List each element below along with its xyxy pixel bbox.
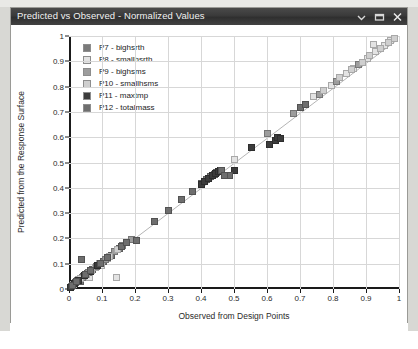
data-point xyxy=(78,256,85,263)
x-tick-label: 0.5 xyxy=(228,294,239,303)
x-tick-mark xyxy=(399,289,400,293)
gridline-vertical xyxy=(399,36,400,289)
data-point xyxy=(320,87,327,94)
screenshot-root: Predicted vs Observed - Normalized Value… xyxy=(0,0,418,349)
y-tick-label: 0.7 xyxy=(53,107,64,116)
x-tick-label: 0.8 xyxy=(327,294,338,303)
y-tick-label: 0.9 xyxy=(53,57,64,66)
y-tick-label: 0.4 xyxy=(53,183,64,192)
y-tick-label: 0.3 xyxy=(53,209,64,218)
legend-swatch xyxy=(83,44,91,52)
data-point xyxy=(366,52,373,59)
data-point xyxy=(377,45,384,52)
x-tick-label: 0.4 xyxy=(195,294,206,303)
x-tick-mark xyxy=(366,289,367,293)
y-tick-label: 1 xyxy=(60,32,64,41)
top-margin-strip xyxy=(0,0,418,7)
y-tick-label: 0.5 xyxy=(53,158,64,167)
x-tick-label: 0 xyxy=(67,294,71,303)
x-axis-title: Observed from Design Points xyxy=(69,311,399,321)
left-margin-strip xyxy=(0,0,10,349)
y-tick-label: 0.6 xyxy=(53,133,64,142)
gridline-horizontal xyxy=(69,188,399,189)
y-tick-mark xyxy=(65,61,69,62)
x-tick-mark xyxy=(168,289,169,293)
data-point xyxy=(264,130,271,137)
gridline-horizontal xyxy=(69,87,399,88)
gridline-horizontal xyxy=(69,36,399,37)
data-point xyxy=(73,278,80,285)
data-point xyxy=(189,188,196,195)
x-tick-label: 0.9 xyxy=(360,294,371,303)
data-point xyxy=(178,196,185,203)
y-tick-label: 0 xyxy=(60,285,64,294)
x-tick-mark xyxy=(234,289,235,293)
plot-area: P7 - bighsrthP8 - smallhsrthP9 - bighsms… xyxy=(69,36,399,289)
legend-label: P12 - totalmass xyxy=(99,103,155,112)
legend-item[interactable]: P9 - bighsms xyxy=(83,66,158,77)
y-tick-mark xyxy=(65,86,69,87)
legend-swatch xyxy=(83,104,91,112)
x-tick-label: 0.3 xyxy=(162,294,173,303)
legend-item[interactable]: P8 - smallhsrth xyxy=(83,54,158,65)
chevron-down-icon[interactable] xyxy=(356,11,367,23)
chart-canvas: Predicted from the Response Surface Obse… xyxy=(11,25,407,323)
x-tick-mark xyxy=(333,289,334,293)
y-tick-mark xyxy=(65,111,69,112)
y-tick-mark xyxy=(65,213,69,214)
data-point xyxy=(277,135,284,142)
gridline-horizontal xyxy=(69,213,399,214)
y-tick-mark xyxy=(65,36,69,37)
window-title: Predicted vs Observed - Normalized Value… xyxy=(17,10,205,21)
x-tick-label: 0.6 xyxy=(261,294,272,303)
x-tick-mark xyxy=(135,289,136,293)
legend-swatch xyxy=(83,92,91,100)
data-point xyxy=(165,207,172,214)
gridline-horizontal xyxy=(69,61,399,62)
data-point xyxy=(151,218,158,225)
y-axis-title: Predicted from the Response Surface xyxy=(16,91,26,233)
x-tick-mark xyxy=(300,289,301,293)
x-tick-label: 0.7 xyxy=(294,294,305,303)
legend-item[interactable]: P11 - maxtmp xyxy=(83,90,158,101)
legend-label: P9 - bighsms xyxy=(99,67,146,76)
data-point xyxy=(87,267,94,274)
y-tick-label: 0.8 xyxy=(53,82,64,91)
restore-window-icon[interactable] xyxy=(374,11,385,23)
data-point xyxy=(133,237,140,244)
data-point xyxy=(97,260,104,267)
data-point xyxy=(336,74,343,81)
legend-item[interactable]: P7 - bighsrth xyxy=(83,42,158,53)
x-tick-label: 1 xyxy=(397,294,401,303)
y-tick-label: 0.1 xyxy=(53,259,64,268)
data-point xyxy=(104,254,111,261)
data-point xyxy=(302,101,309,108)
data-point xyxy=(123,239,130,246)
bottom-margin-strip xyxy=(0,331,418,349)
y-tick-mark xyxy=(65,137,69,138)
legend-label: P11 - maxtmp xyxy=(99,91,148,100)
data-point xyxy=(348,66,355,73)
gridline-horizontal xyxy=(69,238,399,239)
data-point xyxy=(248,144,255,151)
right-margin-strip xyxy=(408,0,418,349)
y-tick-mark xyxy=(65,238,69,239)
chart-legend: P7 - bighsrthP8 - smallhsrthP9 - bighsms… xyxy=(83,42,158,113)
x-tick-mark xyxy=(267,289,268,293)
chart-window: Predicted vs Observed - Normalized Value… xyxy=(10,7,408,323)
x-tick-label: 0.1 xyxy=(96,294,107,303)
y-tick-label: 0.2 xyxy=(53,234,64,243)
x-tick-mark xyxy=(201,289,202,293)
data-point xyxy=(391,35,398,42)
close-icon[interactable] xyxy=(392,11,403,23)
window-titlebar[interactable]: Predicted vs Observed - Normalized Value… xyxy=(11,8,407,25)
data-point xyxy=(359,59,366,66)
data-point xyxy=(221,172,228,179)
legend-label: P8 - smallhsrth xyxy=(99,55,152,64)
x-tick-label: 0.2 xyxy=(129,294,140,303)
gridline-horizontal xyxy=(69,137,399,138)
window-controls xyxy=(356,8,403,25)
x-tick-mark xyxy=(102,289,103,293)
y-tick-mark xyxy=(65,263,69,264)
data-point xyxy=(370,41,377,48)
